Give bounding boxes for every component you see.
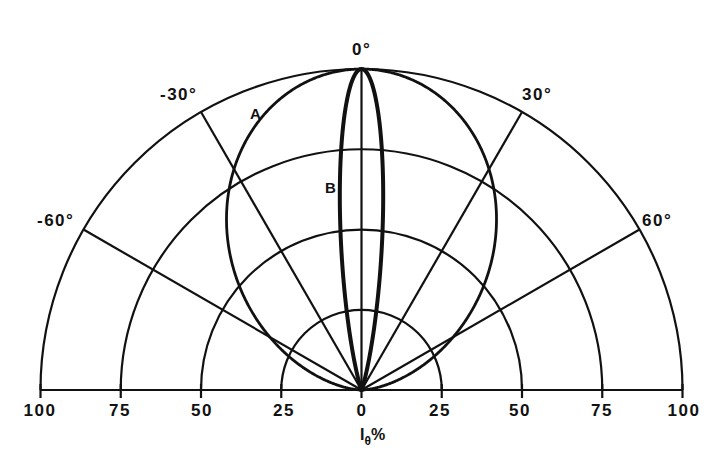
angle-spokes [84,69,640,390]
tick-label-right-25: 25 [429,401,451,420]
tick-label-right-75: 75 [591,401,613,420]
tick-label-left-75: 75 [109,401,131,420]
tick-label-right-100: 100 [668,401,701,420]
tick-label-right-50: 50 [509,401,531,420]
angle-label-0: 0° [352,40,371,59]
curve-label-b: B [325,179,336,196]
tick-label-0: 0 [357,401,368,420]
curve-label-a: A [250,105,261,122]
tick-label-left-50: 50 [191,401,213,420]
angle-label-60: 60° [642,211,672,230]
angle-label-minus-30: -30° [160,85,197,104]
radial-axis-label: Iθ% [360,426,385,448]
spoke-60 [362,230,640,391]
spoke--60 [84,230,362,391]
axis-label-unit: % [371,426,385,443]
tick-label-left-25: 25 [273,401,295,420]
angle-label-minus-60: -60° [37,211,74,230]
tick-labels: 100 75 50 25 0 25 50 75 100 [24,401,701,420]
angle-label-30: 30° [522,85,552,104]
tick-label-left-100: 100 [24,401,57,420]
polar-intensity-chart: 0° -30° 30° -60° 60° A B 100 75 50 25 0 … [0,0,721,458]
